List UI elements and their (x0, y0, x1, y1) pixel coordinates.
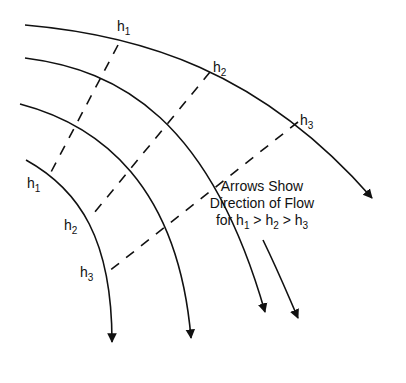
flow-line-1 (25, 25, 372, 198)
flow-caption: Arrows Show Direction of Flow for h1 > h… (196, 178, 328, 229)
equipotential-label: h1 (117, 19, 130, 33)
equipotential-label: h3 (300, 113, 313, 127)
equipotential-label: h2 (213, 60, 226, 74)
flow-line-3 (20, 104, 191, 338)
equipotential-lines (50, 45, 298, 272)
equipotential-label: h1 (27, 176, 40, 190)
caption-line-1: Arrows Show (196, 178, 328, 195)
equipotential-label: h3 (80, 265, 93, 279)
equipotential-h2 (90, 72, 210, 218)
caption-line-3: for h1 > h2 > h3 (196, 212, 328, 229)
caption-line-2: Direction of Flow (196, 195, 328, 212)
equipotential-label: h2 (64, 218, 77, 232)
free-arrow (263, 240, 298, 318)
